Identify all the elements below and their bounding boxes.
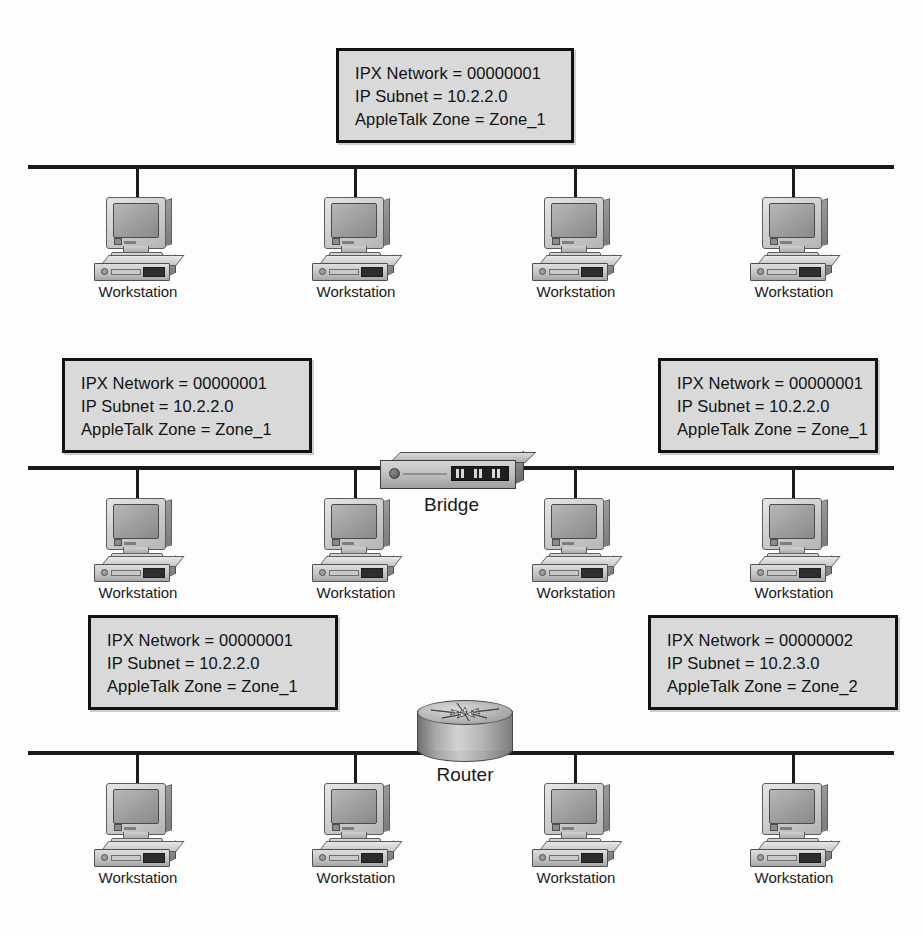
workstation-label: Workstation <box>521 283 631 300</box>
workstation-icon <box>530 783 622 865</box>
ip-subnet-line: IP Subnet = 10.2.2.0 <box>355 85 557 108</box>
workstation-label: Workstation <box>521 869 631 886</box>
annotation-box-bottom-left: IPX Network = 00000001 IP Subnet = 10.2.… <box>88 615 338 710</box>
drop-line-middle-2 <box>354 470 357 500</box>
annotation-box-middle-right: IPX Network = 00000001 IP Subnet = 10.2.… <box>658 358 878 453</box>
drop-line-top-4 <box>792 169 795 199</box>
workstation-middle-4[interactable]: Workstation <box>739 498 849 601</box>
workstation-label: Workstation <box>301 869 411 886</box>
drop-line-middle-3 <box>574 470 577 500</box>
ipx-network-line: IPX Network = 00000002 <box>667 629 881 652</box>
network-diagram: IPX Network = 00000001 IP Subnet = 10.2.… <box>0 0 923 937</box>
drop-line-top-1 <box>136 169 139 199</box>
workstation-icon <box>530 498 622 580</box>
workstation-label: Workstation <box>739 283 849 300</box>
drop-line-middle-4 <box>792 470 795 500</box>
workstation-label: Workstation <box>521 584 631 601</box>
ipx-network-line: IPX Network = 00000001 <box>677 372 861 395</box>
workstation-icon <box>748 498 840 580</box>
workstation-middle-3[interactable]: Workstation <box>521 498 631 601</box>
ipx-network-line: IPX Network = 00000001 <box>81 372 295 395</box>
workstation-label: Workstation <box>83 584 193 601</box>
ipx-network-line: IPX Network = 00000001 <box>355 62 557 85</box>
ipx-network-line: IPX Network = 00000001 <box>107 629 321 652</box>
ip-subnet-line: IP Subnet = 10.2.2.0 <box>107 652 321 675</box>
workstation-label: Workstation <box>739 584 849 601</box>
workstation-icon <box>748 783 840 865</box>
workstation-icon <box>92 783 184 865</box>
drop-line-bottom-4 <box>792 755 795 785</box>
workstation-bottom-3[interactable]: Workstation <box>521 783 631 886</box>
router-icon <box>417 700 513 762</box>
workstation-label: Workstation <box>301 584 411 601</box>
workstation-middle-1[interactable]: Workstation <box>83 498 193 601</box>
ip-subnet-line: IP Subnet = 10.2.3.0 <box>667 652 881 675</box>
annotation-box-bottom-right: IPX Network = 00000002 IP Subnet = 10.2.… <box>648 615 898 710</box>
workstation-icon <box>310 498 402 580</box>
drop-line-middle-1 <box>136 470 139 500</box>
workstation-top-2[interactable]: Workstation <box>301 197 411 300</box>
router-device[interactable]: Router <box>417 700 513 786</box>
bridge-icon <box>380 452 528 490</box>
workstation-icon <box>748 197 840 279</box>
workstation-label: Workstation <box>83 869 193 886</box>
workstation-icon <box>92 197 184 279</box>
workstation-icon <box>92 498 184 580</box>
appletalk-zone-line: AppleTalk Zone = Zone_1 <box>107 675 321 698</box>
ip-subnet-line: IP Subnet = 10.2.2.0 <box>677 395 861 418</box>
workstation-icon <box>310 197 402 279</box>
workstation-label: Workstation <box>301 283 411 300</box>
workstation-label: Workstation <box>83 283 193 300</box>
annotation-box-middle-left: IPX Network = 00000001 IP Subnet = 10.2.… <box>62 358 312 453</box>
router-label: Router <box>417 764 513 786</box>
appletalk-zone-line: AppleTalk Zone = Zone_2 <box>667 675 881 698</box>
workstation-icon <box>310 783 402 865</box>
workstation-top-4[interactable]: Workstation <box>739 197 849 300</box>
drop-line-bottom-3 <box>574 755 577 785</box>
annotation-box-top-center: IPX Network = 00000001 IP Subnet = 10.2.… <box>336 48 574 143</box>
workstation-bottom-1[interactable]: Workstation <box>83 783 193 886</box>
router-arrows-icon <box>417 700 513 725</box>
drop-line-top-3 <box>574 169 577 199</box>
appletalk-zone-line: AppleTalk Zone = Zone_1 <box>677 418 861 441</box>
workstation-middle-2[interactable]: Workstation <box>301 498 411 601</box>
appletalk-zone-line: AppleTalk Zone = Zone_1 <box>81 418 295 441</box>
appletalk-zone-line: AppleTalk Zone = Zone_1 <box>355 108 557 131</box>
drop-line-bottom-1 <box>136 755 139 785</box>
ip-subnet-line: IP Subnet = 10.2.2.0 <box>81 395 295 418</box>
workstation-bottom-4[interactable]: Workstation <box>739 783 849 886</box>
drop-line-bottom-2 <box>354 755 357 785</box>
drop-line-top-2 <box>354 169 357 199</box>
workstation-top-3[interactable]: Workstation <box>521 197 631 300</box>
workstation-top-1[interactable]: Workstation <box>83 197 193 300</box>
workstation-icon <box>530 197 622 279</box>
workstation-bottom-2[interactable]: Workstation <box>301 783 411 886</box>
bus-line-segment-top <box>28 165 894 169</box>
workstation-label: Workstation <box>739 869 849 886</box>
